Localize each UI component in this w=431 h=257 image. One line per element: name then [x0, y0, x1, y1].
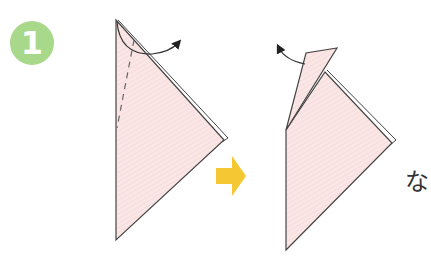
fold-illustration [0, 0, 431, 257]
paper-before-fold [116, 20, 228, 240]
paper-after-fold [279, 48, 396, 250]
next-step-arrow [216, 156, 246, 196]
caption-line: な [405, 166, 431, 199]
origami-instruction-diagram: 1 な [0, 0, 431, 257]
instruction-caption: な は し も [405, 100, 431, 257]
fold-direction-arrow [279, 48, 305, 64]
